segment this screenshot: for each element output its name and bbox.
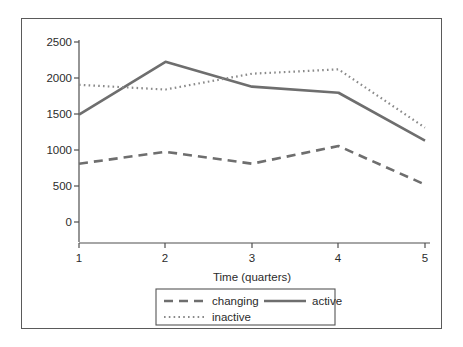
series-group	[79, 62, 425, 185]
x-tick-label-1: 1	[76, 252, 82, 264]
series-line-changing	[79, 146, 425, 185]
x-axis-ticks	[79, 243, 425, 248]
y-tick-label-2000: 2000	[46, 72, 72, 84]
y-tick-label-1000: 1000	[46, 144, 72, 156]
y-axis-tick-labels: 2500 2000 1500 1000 500 0	[46, 36, 72, 228]
x-tick-label-5: 5	[422, 252, 428, 264]
x-tick-label-4: 4	[335, 252, 342, 264]
y-tick-label-500: 500	[53, 180, 72, 192]
legend-label-active: active	[312, 295, 342, 307]
legend-label-changing: changing	[212, 295, 259, 307]
y-tick-label-1500: 1500	[46, 108, 72, 120]
series-line-inactive	[79, 69, 425, 127]
x-axis-tick-labels: 1 2 3 4 5	[76, 252, 428, 264]
chart-legend: changing active inactive	[156, 289, 342, 325]
chart-figure: 2500 2000 1500 1000 500 0	[0, 0, 463, 347]
line-chart-plot: 2500 2000 1500 1000 500 0	[0, 0, 463, 347]
x-axis-title: Time (quarters)	[213, 271, 291, 283]
x-tick-label-3: 3	[249, 252, 255, 264]
legend-label-inactive: inactive	[212, 311, 251, 323]
y-axis-ticks	[74, 42, 79, 222]
x-tick-label-2: 2	[162, 252, 168, 264]
series-line-active	[79, 62, 425, 141]
y-tick-label-2500: 2500	[46, 36, 72, 48]
y-tick-label-0: 0	[66, 216, 72, 228]
